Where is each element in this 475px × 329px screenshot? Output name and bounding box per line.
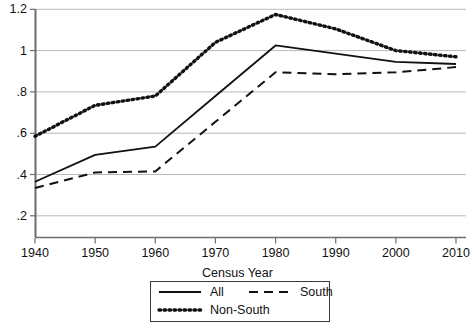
gridlines <box>35 9 466 216</box>
x-tick-label: 2000 <box>382 246 410 260</box>
x-tick-label: 1990 <box>322 246 350 260</box>
x-tick-label: 1980 <box>262 246 290 260</box>
data-series-group <box>35 14 456 187</box>
x-tick-marks <box>35 238 456 244</box>
series-line-south <box>35 67 456 188</box>
axis-lines <box>35 9 466 238</box>
y-tick-label: .8 <box>17 85 27 99</box>
legend-key-solid <box>157 286 203 298</box>
legend-key-dashed <box>247 286 293 298</box>
legend-label-all: All <box>210 285 224 299</box>
y-tick-label: .6 <box>17 126 27 140</box>
x-tick-label: 1950 <box>81 246 109 260</box>
y-tick-label: 1 <box>20 44 27 58</box>
legend: All South Non-South <box>150 281 330 322</box>
legend-key-dotted <box>157 304 203 316</box>
x-tick-label: 2010 <box>442 246 470 260</box>
legend-item-non-south: Non-South <box>157 303 270 317</box>
x-tick-label: 1970 <box>202 246 230 260</box>
x-tick-label: 1960 <box>141 246 169 260</box>
chart-figure: 1.21.8.6.4.2 194019501960197019801990200… <box>0 0 475 329</box>
legend-label-non-south: Non-South <box>210 303 270 317</box>
y-tick-marks <box>30 9 35 216</box>
legend-label-south: South <box>300 285 333 299</box>
series-line-non-south <box>35 14 456 136</box>
y-tick-label: .2 <box>17 209 27 223</box>
legend-item-south: South <box>247 285 333 299</box>
x-tick-label: 1940 <box>21 246 49 260</box>
legend-item-all: All <box>157 285 224 299</box>
series-line-all <box>35 45 456 181</box>
y-tick-label: .4 <box>17 168 27 182</box>
y-tick-label: 1.2 <box>10 2 27 16</box>
x-axis-title: Census Year <box>0 266 475 280</box>
